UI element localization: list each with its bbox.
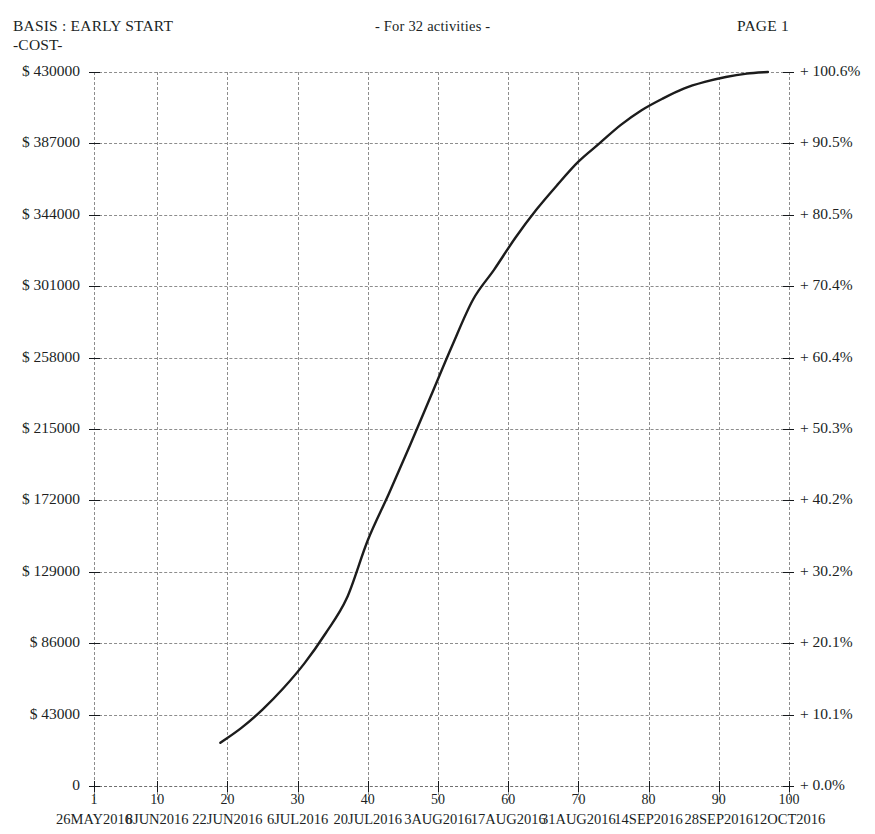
y-axis-right-tick-label: + 10.1%	[800, 705, 853, 723]
x-axis-number-label: 100	[759, 792, 819, 808]
y-axis-left-tick-label: $ 258000	[0, 348, 80, 366]
chart-plot-area	[94, 72, 789, 786]
header-cost: -COST-	[13, 36, 63, 54]
x-axis-date-label: 12OCT2016	[744, 811, 834, 828]
y-axis-right-tick-label: + 80.5%	[800, 205, 853, 223]
y-axis-left-tick-label: $ 430000	[0, 62, 80, 80]
report-page: BASIS : EARLY START -COST- - For 32 acti…	[0, 0, 875, 834]
y-axis-left-tick-label: $ 344000	[0, 205, 80, 223]
y-axis-left-tick-label: $ 215000	[0, 419, 80, 437]
header-basis: BASIS : EARLY START	[13, 17, 173, 35]
gridline-horizontal	[94, 786, 789, 787]
y-axis-right-tick-label: + 40.2%	[800, 490, 853, 508]
x-axis-number-label: 90	[689, 792, 749, 808]
x-axis-number-label: 40	[338, 792, 398, 808]
x-axis-number-label: 20	[197, 792, 257, 808]
y-axis-right-tick-label: + 100.6%	[800, 62, 860, 80]
y-axis-left-tick-label: $ 129000	[0, 562, 80, 580]
y-axis-right-tick-label: + 50.3%	[800, 419, 853, 437]
x-axis-number-label: 60	[478, 792, 538, 808]
x-axis-number-label: 30	[268, 792, 328, 808]
y-axis-right-tick-label: + 60.4%	[800, 348, 853, 366]
y-axis-right-tick-label: + 70.4%	[800, 276, 853, 294]
y-axis-right-tick-label: + 30.2%	[800, 562, 853, 580]
y-axis-left-tick-label: $ 43000	[0, 705, 80, 723]
x-axis-number-label: 50	[408, 792, 468, 808]
tick-mark	[789, 781, 790, 792]
y-axis-left-tick-label: $ 86000	[0, 633, 80, 651]
y-axis-left-tick-label: $ 387000	[0, 133, 80, 151]
x-axis-number-label: 80	[619, 792, 679, 808]
x-axis-number-label: 10	[127, 792, 187, 808]
header-activities: - For 32 activities -	[375, 18, 490, 35]
header-page: PAGE 1	[737, 17, 789, 35]
gridline-vertical	[789, 72, 790, 800]
y-axis-right-tick-label: + 20.1%	[800, 633, 853, 651]
y-axis-right-tick-label: + 90.5%	[800, 133, 853, 151]
y-axis-left-tick-label: $ 301000	[0, 276, 80, 294]
cumulative-cost-curve	[94, 72, 789, 786]
x-axis-number-label: 70	[548, 792, 608, 808]
x-axis-number-label: 1	[64, 792, 124, 808]
y-axis-left-tick-label: $ 172000	[0, 490, 80, 508]
